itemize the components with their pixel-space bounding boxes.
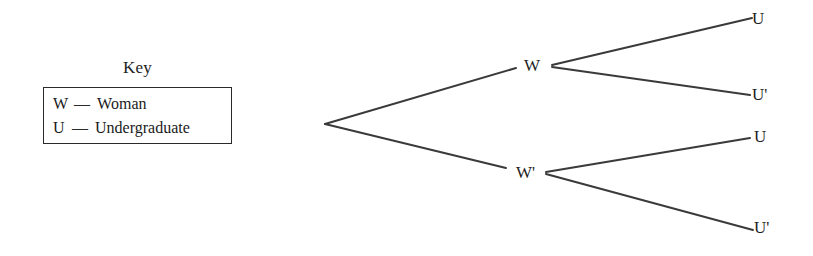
tree-node-w: W [524,57,540,74]
tree-branches [0,0,813,256]
tree-branch-wp-to-u2 [546,138,750,172]
probability-tree-figure: Key W — Woman U — Undergraduate W W' U U… [0,0,813,256]
tree-leaf-u-prime-lower: U' [754,219,769,236]
tree-branch-root-to-w [325,68,516,124]
tree-leaf-u-lower: U [754,128,766,145]
tree-node-w-prime: W' [516,164,535,181]
tree-leaf-u-upper: U [752,10,764,27]
tree-branch-w-to-u1 [552,18,752,65]
tree-leaf-u-prime-upper: U' [752,86,767,103]
tree-branch-wp-to-up2 [546,174,753,230]
tree-branch-w-to-up1 [552,67,750,95]
tree-branch-root-to-wp [325,124,506,168]
